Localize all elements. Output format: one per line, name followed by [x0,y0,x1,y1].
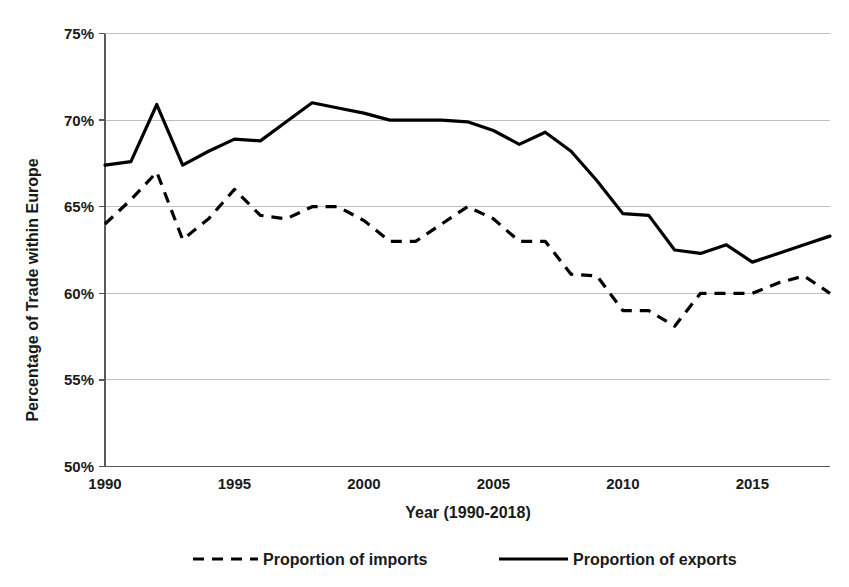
legend-label-imports: Proportion of imports [263,551,428,568]
x-tick-label: 2015 [736,475,769,492]
legend-label-exports: Proportion of exports [573,551,737,568]
y-tick-label: 75% [64,25,94,42]
gridlines [105,34,830,380]
legend: Proportion of imports Proportion of expo… [193,551,737,568]
line-chart: 50%55%60%65%70%75% 199019952000200520102… [0,0,849,587]
y-tick-label: 55% [64,371,94,388]
y-tick-label: 70% [64,112,94,129]
x-tick-label: 1990 [88,475,121,492]
x-axis-title: Year (1990-2018) [405,504,530,521]
x-tick-labels: 199019952000200520102015 [88,475,769,492]
y-axis-title: Percentage of Trade within Europe [24,158,41,421]
y-tick-labels: 50%55%60%65%70%75% [64,25,105,475]
x-tick-label: 1995 [218,475,251,492]
y-tick-label: 60% [64,285,94,302]
series-proportion-of-exports [105,103,830,262]
y-tick-label: 65% [64,198,94,215]
x-tick-label: 2010 [606,475,639,492]
y-tick-label: 50% [64,458,94,475]
x-tick-label: 2005 [477,475,510,492]
series-group [105,103,830,326]
x-tick-label: 2000 [347,475,380,492]
chart-canvas: 50%55%60%65%70%75% 199019952000200520102… [0,0,849,587]
series-proportion-of-imports [105,172,830,326]
